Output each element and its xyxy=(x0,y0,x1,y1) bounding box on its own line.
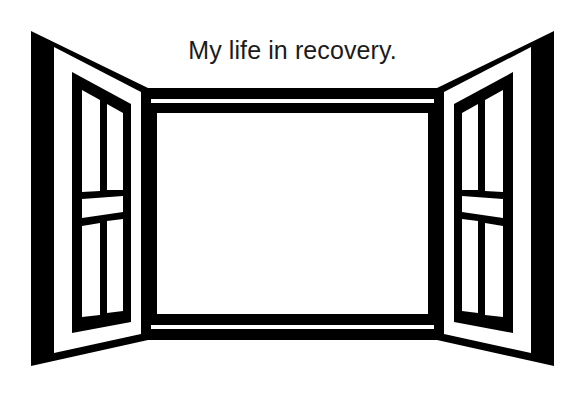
open-window-illustration xyxy=(0,0,585,399)
left-shutter-pane-top-right xyxy=(107,104,123,190)
sill-highlight-line xyxy=(151,325,434,329)
left-shutter-pane-bottom-left xyxy=(82,223,100,317)
left-shutter-pane-top-left xyxy=(82,90,100,192)
right-shutter-pane-bottom-right xyxy=(485,223,503,317)
top-rail-highlight-line xyxy=(151,99,434,103)
right-shutter xyxy=(437,31,554,366)
right-shutter-pane-top-right xyxy=(485,90,503,192)
window-view-area xyxy=(157,113,428,314)
right-shutter-pane-top-left xyxy=(462,104,478,190)
left-shutter-pane-bottom-right xyxy=(107,219,123,313)
illustration-canvas: My life in recovery. xyxy=(0,0,585,399)
left-shutter xyxy=(31,31,148,366)
right-shutter-pane-bottom-left xyxy=(462,219,478,313)
center-window-opening xyxy=(148,88,437,340)
